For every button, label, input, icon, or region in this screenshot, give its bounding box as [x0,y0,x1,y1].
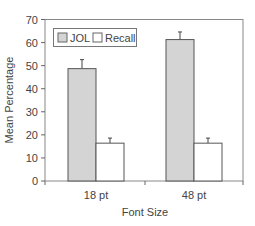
y-tick-label: 50 [26,60,38,72]
x-axis-title: Font Size [122,206,168,218]
legend: JOL Recall [54,29,137,47]
x-label-48pt: 48 pt [182,189,206,201]
bar-chart: 010203040506070 18 pt 48 pt Font Size Me… [0,0,255,226]
bar-jol-48pt [166,40,194,181]
y-tick-label: 60 [26,37,38,49]
bar-jol-18pt [68,69,96,181]
bars [68,32,222,181]
y-tick-label: 30 [26,106,38,118]
y-tick-label: 20 [26,129,38,141]
bar-recall-18pt [96,143,124,181]
legend-swatch-jol [58,33,67,42]
legend-label-jol: JOL [70,32,90,44]
bar-recall-48pt [194,143,222,181]
y-tick-label: 70 [26,14,38,26]
y-axis-title: Mean Percentage [3,57,15,144]
legend-label-recall: Recall [105,32,136,44]
y-tick-label: 40 [26,83,38,95]
x-label-18pt: 18 pt [84,189,108,201]
y-axis: 010203040506070 [26,14,45,188]
y-tick-label: 0 [32,175,38,187]
legend-swatch-recall [93,33,102,42]
y-tick-label: 10 [26,152,38,164]
